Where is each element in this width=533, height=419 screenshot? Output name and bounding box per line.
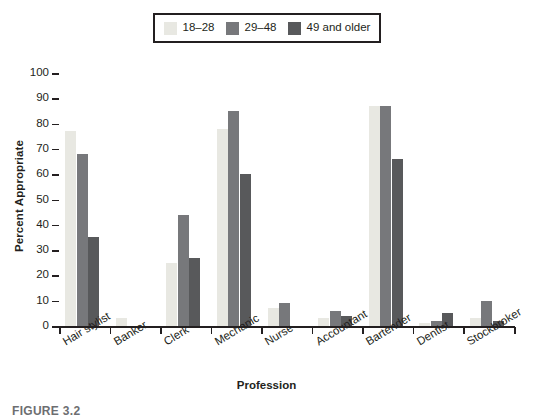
y-axis-tick	[52, 73, 59, 75]
bar	[318, 318, 329, 326]
bar	[189, 258, 200, 326]
bar	[116, 318, 127, 326]
bar	[380, 106, 391, 326]
bar	[77, 154, 88, 326]
bar	[240, 174, 251, 326]
legend-item-0: 18–28	[164, 22, 215, 35]
x-axis-title: Profession	[0, 379, 533, 391]
bar	[369, 106, 380, 326]
y-axis-tick-label: 100	[5, 67, 49, 79]
x-axis-category-label: Clerk	[162, 324, 191, 348]
y-axis-tick-label: 60	[5, 168, 49, 180]
bar	[470, 318, 481, 326]
bar	[268, 308, 279, 326]
x-axis-tick	[312, 327, 314, 334]
chart-legend: 18–28 29–48 49 and older	[153, 13, 381, 43]
bar	[166, 263, 177, 326]
bars-layer	[59, 73, 514, 326]
legend-label-29-48: 29–48	[245, 22, 277, 34]
bar	[65, 131, 76, 326]
y-axis-tick	[52, 225, 59, 227]
y-axis-tick	[52, 301, 59, 303]
x-axis-tick	[261, 327, 263, 334]
legend-item-2: 49 and older	[288, 22, 371, 35]
y-axis-tick-label: 50	[5, 194, 49, 206]
x-axis-tick	[362, 327, 364, 334]
bar	[419, 323, 430, 326]
y-axis-tick-labels: 0102030405060708090100	[0, 0, 49, 419]
x-axis-tick	[110, 327, 112, 334]
figure-container: 18–28 29–48 49 and older Percent Appropr…	[0, 0, 533, 419]
x-axis-tick	[211, 327, 213, 334]
y-axis-tick-label: 20	[5, 269, 49, 281]
y-axis-tick	[52, 275, 59, 277]
y-axis-tick	[52, 326, 59, 328]
y-axis-tick	[52, 149, 59, 151]
y-axis-tick-label: 0	[5, 320, 49, 332]
x-axis-tick	[413, 327, 415, 334]
y-axis-tick	[52, 200, 59, 202]
y-axis-tick-label: 70	[5, 143, 49, 155]
x-axis-tick	[59, 327, 61, 334]
x-axis-tick	[160, 327, 162, 334]
y-axis-tick-label: 90	[5, 92, 49, 104]
plot-area	[59, 73, 514, 326]
x-axis-tick	[514, 327, 516, 334]
legend-swatch-18-28	[164, 22, 177, 35]
legend-swatch-49-and-older	[288, 22, 301, 35]
bar	[217, 129, 228, 326]
legend-label-49-and-older: 49 and older	[307, 22, 371, 34]
bar	[178, 215, 189, 326]
legend-swatch-29-48	[226, 22, 239, 35]
y-axis-tick-label: 30	[5, 244, 49, 256]
y-axis-tick	[52, 98, 59, 100]
bar	[228, 111, 239, 326]
y-axis-tick	[52, 124, 59, 126]
y-axis-tick-label: 10	[5, 295, 49, 307]
bar	[392, 159, 403, 326]
y-axis-tick-label: 80	[5, 118, 49, 130]
legend-item-1: 29–48	[226, 22, 277, 35]
bar	[88, 237, 99, 326]
legend-label-18-28: 18–28	[183, 22, 215, 34]
y-axis-tick-label: 40	[5, 219, 49, 231]
x-axis-tick	[463, 327, 465, 334]
figure-caption: FIGURE 3.2	[12, 404, 80, 418]
y-axis-tick	[52, 250, 59, 252]
y-axis-tick	[52, 174, 59, 176]
